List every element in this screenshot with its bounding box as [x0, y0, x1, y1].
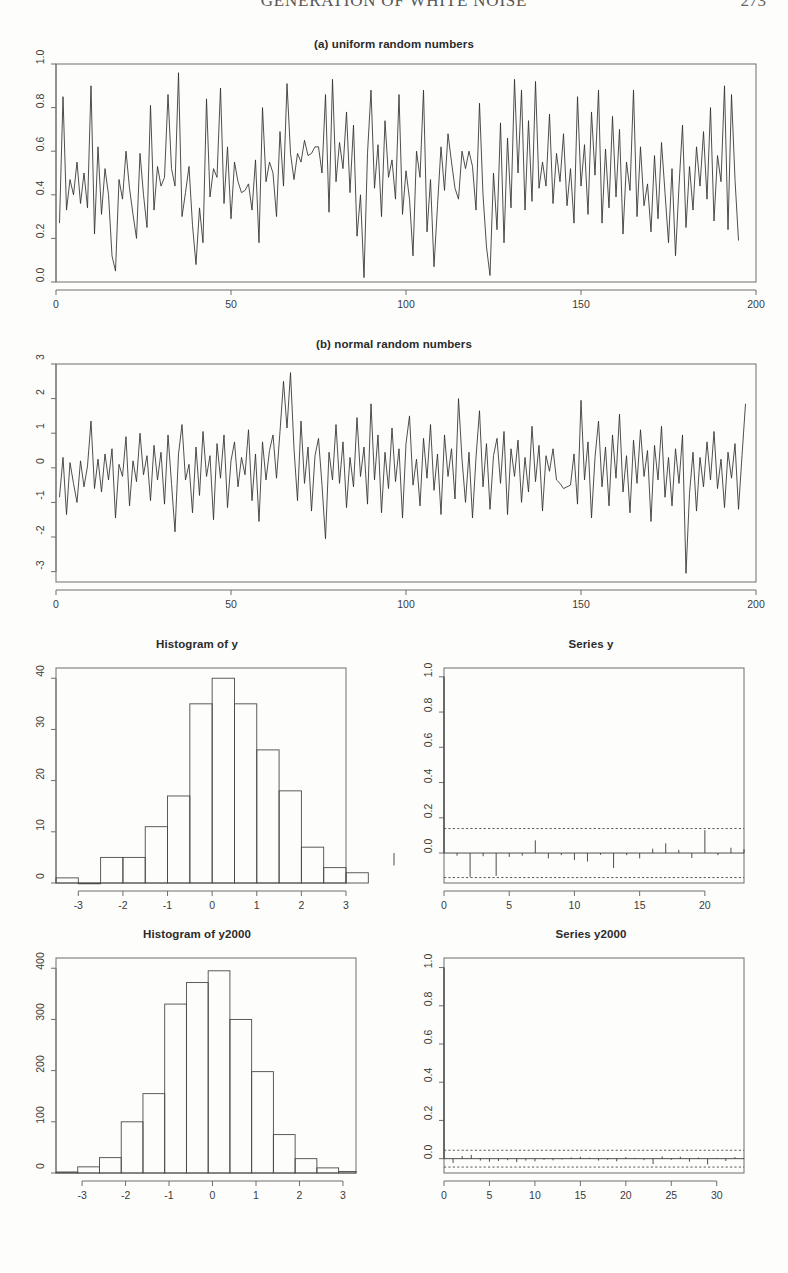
y-tick-label: 1.0: [421, 944, 435, 978]
y-tick-label: 0.6: [421, 723, 435, 757]
y-tick-label: 0: [33, 444, 47, 478]
y-tick-label: 30: [33, 705, 47, 739]
x-tick-label: 10: [569, 899, 581, 911]
y-axis: [51, 64, 56, 282]
y-tick-label: 0.6: [421, 1020, 435, 1054]
x-tick-label: 150: [572, 298, 590, 310]
y-tick-label: 40: [33, 654, 47, 688]
acf-stems: [394, 677, 744, 877]
histogram-bar: [123, 857, 145, 883]
x-axis: [56, 590, 756, 595]
y-tick-label: -1: [33, 478, 47, 512]
histogram-bar: [273, 1135, 295, 1173]
x-tick-label: 0: [209, 899, 215, 911]
panel-normal-random-numbers: (b) normal random numbers -3-2-101230501…: [0, 338, 788, 638]
y-tick-label: -2: [33, 513, 47, 547]
y-tick-label: 0.6: [33, 127, 47, 161]
x-tick-label: 0: [53, 598, 59, 610]
scanned-textbook-page: GENERATION OF WHITE NOISE 273 (a) unifor…: [0, 0, 788, 1273]
y-tick-label: 300: [33, 995, 47, 1029]
y-tick-label: 0.2: [421, 794, 435, 828]
y-tick-label: 10: [33, 808, 47, 842]
plot-frame: [444, 668, 744, 883]
y-axis: [51, 968, 56, 1173]
y-tick-label: 100: [33, 1098, 47, 1132]
y-axis: [439, 677, 444, 853]
running-head: GENERATION OF WHITE NOISE 273: [0, 0, 788, 13]
x-axis: [56, 290, 756, 295]
x-axis: [82, 1181, 343, 1186]
y-tick-label: 200: [33, 1047, 47, 1081]
histogram-bar: [56, 1172, 78, 1173]
y-axis: [51, 678, 56, 883]
histogram-bars: [56, 678, 368, 884]
y-tick-label: 0.0: [33, 258, 47, 292]
x-tick-label: 10: [529, 1189, 541, 1201]
histogram-bar: [99, 1158, 121, 1173]
x-axis: [444, 1181, 717, 1186]
x-tick-label: 1: [253, 1189, 259, 1201]
x-tick-label: 50: [225, 598, 237, 610]
x-tick-label: 15: [575, 1189, 587, 1201]
histogram-bar: [145, 827, 167, 883]
x-tick-label: -3: [77, 1189, 86, 1201]
plot-frame: [56, 668, 346, 883]
y-tick-label: 0.4: [421, 759, 435, 793]
histogram-bar: [121, 1122, 143, 1173]
histogram-bar: [339, 1171, 356, 1173]
plot-frame: [56, 364, 756, 582]
x-tick-label: -1: [164, 1189, 173, 1201]
histogram-bar: [257, 750, 279, 883]
panel-histogram-y: Histogram of y 010203040-3-2-10123: [0, 638, 394, 928]
y-tick-label: 0.8: [421, 982, 435, 1016]
histogram-bar: [234, 704, 256, 883]
x-tick-label: 2: [298, 899, 304, 911]
histogram-bar: [279, 791, 301, 883]
plot-frame: [56, 64, 756, 282]
y-tick-label: 0.8: [33, 84, 47, 118]
acf-y2000-canvas: [394, 928, 788, 1273]
y-tick-label: 400: [33, 944, 47, 978]
x-tick-label: 5: [487, 1189, 493, 1201]
x-tick-label: -1: [163, 899, 172, 911]
histogram-bar: [168, 796, 190, 883]
x-tick-label: 15: [634, 899, 646, 911]
histogram-bar: [295, 1159, 317, 1173]
x-tick-label: 0: [53, 298, 59, 310]
x-tick-label: 100: [397, 298, 415, 310]
x-axis: [444, 891, 705, 896]
running-title: GENERATION OF WHITE NOISE: [0, 0, 788, 11]
y-tick-label: 1.0: [33, 40, 47, 74]
plot-frame: [56, 958, 356, 1173]
y-tick-label: 0.4: [421, 1058, 435, 1092]
histogram-bar: [165, 1004, 187, 1173]
panel-acf-y2000: Series y2000 0.00.20.40.60.81.0051015202…: [394, 928, 788, 1273]
x-tick-label: 200: [747, 598, 765, 610]
y-tick-label: 1: [33, 409, 47, 443]
normal-series-line: [60, 373, 746, 574]
x-tick-label: 20: [699, 899, 711, 911]
histogram-bar: [301, 847, 323, 883]
y-tick-label: 2: [33, 375, 47, 409]
y-tick-label: 0: [33, 859, 47, 893]
y-tick-label: 3: [33, 340, 47, 374]
x-tick-label: 1: [254, 899, 260, 911]
x-tick-label: 5: [506, 899, 512, 911]
x-tick-label: 3: [340, 1189, 346, 1201]
histogram-bar: [56, 878, 78, 883]
x-tick-label: 100: [397, 598, 415, 610]
x-tick-label: 0: [441, 1189, 447, 1201]
x-tick-label: -2: [118, 899, 127, 911]
x-tick-label: 2: [297, 1189, 303, 1201]
y-tick-label: 1.0: [421, 653, 435, 687]
acf-stems: [444, 968, 744, 1165]
histogram-bar: [101, 857, 123, 883]
y-tick-label: 0.2: [421, 1096, 435, 1130]
y-tick-label: 0.8: [421, 688, 435, 722]
y-tick-label: 0: [33, 1149, 47, 1183]
x-tick-label: 3: [343, 899, 349, 911]
y-axis: [439, 968, 444, 1159]
x-tick-label: -3: [74, 899, 83, 911]
plot-frame: [444, 958, 744, 1173]
page-number: 273: [741, 0, 767, 11]
